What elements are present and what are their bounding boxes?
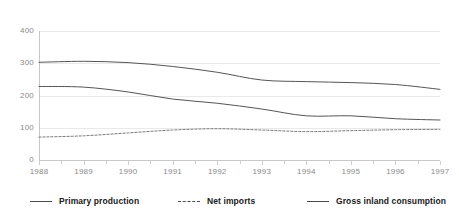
legend-item-1[interactable]: Net imports <box>178 193 255 209</box>
chart-legend: Primary productionNet importsGross inlan… <box>0 193 459 213</box>
series-layer <box>0 0 459 220</box>
line-chart: 0100200300400 19881989199019911992199319… <box>0 0 459 220</box>
legend-line-swatch <box>30 201 52 202</box>
legend-label: Primary production <box>59 196 139 206</box>
series-line-0 <box>39 86 440 120</box>
legend-line-swatch <box>178 201 200 202</box>
legend-line-swatch <box>307 201 329 202</box>
legend-item-0[interactable]: Primary production <box>30 193 139 209</box>
legend-label: Gross inland consumption <box>336 196 446 206</box>
series-line-2 <box>39 61 440 89</box>
series-line-1 <box>39 129 440 137</box>
legend-item-2[interactable]: Gross inland consumption <box>307 193 446 209</box>
legend-label: Net imports <box>207 196 255 206</box>
